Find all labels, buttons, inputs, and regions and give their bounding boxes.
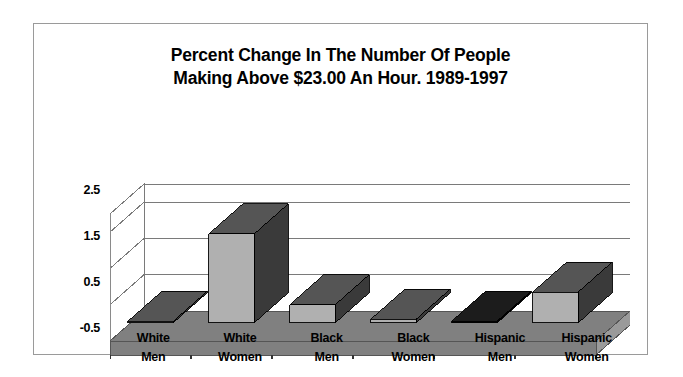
- chart-title: Percent Change In The Number Of People M…: [34, 44, 647, 90]
- y-tick-neg-0-5: -0.5: [80, 321, 100, 335]
- chart-frame: Percent Change In The Number Of People M…: [33, 23, 648, 355]
- x-category-white-men-line-2: Men: [110, 348, 197, 367]
- x-axis-category-labels: White Men White Women Black Men Black Wo…: [110, 329, 630, 377]
- x-category-white-women-line-2: Women: [197, 348, 284, 367]
- x-category-hispanic-men: Hispanic Men: [457, 329, 544, 377]
- chart-title-line-1: Percent Change In The Number Of People: [34, 44, 647, 67]
- x-category-hispanic-women-line-1: Hispanic: [543, 329, 630, 348]
- x-category-black-women-line-2: Women: [370, 348, 457, 367]
- y-tick-1-5: 1.5: [84, 229, 100, 243]
- x-category-white-women: White Women: [197, 329, 284, 377]
- x-category-white-men: White Men: [110, 329, 197, 377]
- x-category-black-men-line-2: Men: [283, 348, 370, 367]
- x-category-black-women: Black Women: [370, 329, 457, 377]
- y-tick-0-5: 0.5: [84, 275, 100, 289]
- x-category-hispanic-men-line-1: Hispanic: [457, 329, 544, 348]
- x-category-hispanic-men-line-2: Men: [457, 348, 544, 367]
- x-category-white-women-line-1: White: [197, 329, 284, 348]
- y-tick-2-5: 2.5: [84, 183, 100, 197]
- x-category-black-men-line-1: Black: [283, 329, 370, 348]
- chart-title-line-2: Making Above $23.00 An Hour. 1989-1997: [34, 67, 647, 90]
- x-category-black-men: Black Men: [283, 329, 370, 377]
- x-category-hispanic-women-line-2: Women: [543, 348, 630, 367]
- x-category-hispanic-women: Hispanic Women: [543, 329, 630, 377]
- y-axis-tick-labels: 2.5 1.5 0.5 -0.5: [34, 174, 100, 359]
- x-category-white-men-line-1: White: [110, 329, 197, 348]
- x-category-black-women-line-1: Black: [370, 329, 457, 348]
